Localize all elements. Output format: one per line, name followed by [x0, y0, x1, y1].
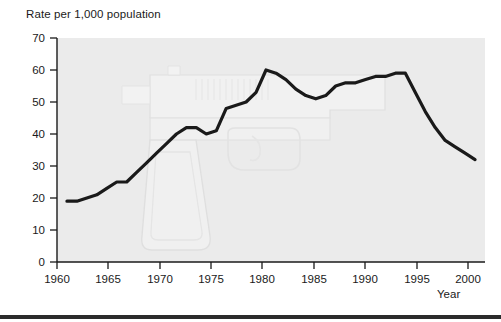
x-axis-ticks — [57, 262, 468, 269]
x-tick-label-1970: 1970 — [147, 273, 173, 285]
x-tick-label-1985: 1985 — [301, 273, 327, 285]
x-tick-label-1990: 1990 — [352, 273, 378, 285]
x-tick-label-1960: 1960 — [44, 273, 70, 285]
line-chart-canvas: 70 60 50 40 30 20 10 0 1960 1965 1970 19… — [0, 0, 501, 322]
x-tick-label-1995: 1995 — [404, 273, 430, 285]
x-tick-label-2000: 2000 — [455, 273, 481, 285]
y-tick-label-40: 40 — [32, 128, 45, 140]
y-tick-label-0: 0 — [39, 256, 45, 268]
x-tick-label-1965: 1965 — [95, 273, 121, 285]
y-tick-label-30: 30 — [32, 160, 45, 172]
y-tick-label-70: 70 — [32, 32, 45, 44]
y-tick-label-50: 50 — [32, 96, 45, 108]
x-axis-title: Year — [437, 288, 460, 300]
x-tick-label-1975: 1975 — [198, 273, 224, 285]
x-tick-label-1980: 1980 — [249, 273, 275, 285]
y-tick-label-10: 10 — [32, 224, 45, 236]
y-tick-label-20: 20 — [32, 192, 45, 204]
y-axis-ticks — [50, 38, 57, 262]
y-tick-label-60: 60 — [32, 64, 45, 76]
bottom-divider-rule — [0, 315, 501, 319]
chart-figure: Rate per 1,000 population — [0, 0, 501, 322]
